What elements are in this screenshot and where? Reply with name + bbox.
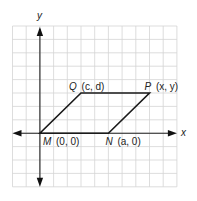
vertex-label-m: M (0, 0) [43, 136, 79, 147]
vertex-name-n: N [105, 136, 113, 147]
vertex-coords-p: (x, y) [156, 81, 178, 92]
y-axis-up-arrow-icon [37, 27, 43, 36]
vertex-coords-q: (c, d) [82, 81, 105, 92]
vertex-name-m: M [43, 136, 52, 147]
x-axis-right-arrow-icon [168, 130, 177, 136]
vertex-label-n: N (a, 0) [105, 136, 140, 147]
y-axis-label: y [36, 10, 43, 21]
vertex-label-p: P (x, y) [145, 81, 179, 92]
x-axis-label: x [180, 127, 187, 138]
vertex-coords-n: (a, 0) [117, 136, 140, 147]
x-axis-left-arrow-icon [13, 130, 22, 136]
coordinate-plane-diagram: x y M (0, 0) N (a, 0) P (x, y) Q (c, d) [0, 0, 197, 201]
vertex-label-q: Q (c, d) [69, 81, 104, 92]
vertex-name-q: Q [69, 81, 77, 92]
vertex-name-p: P [145, 81, 152, 92]
vertex-coords-m: (0, 0) [56, 136, 79, 147]
vertex-labels: M (0, 0) N (a, 0) P (x, y) Q (c, d) [43, 81, 178, 147]
grid [13, 26, 177, 187]
y-axis-down-arrow-icon [37, 178, 43, 187]
